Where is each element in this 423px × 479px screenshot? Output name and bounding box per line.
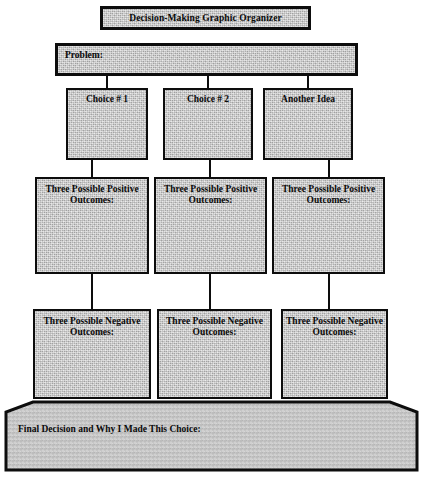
connector-positive-2-to-negative-2: [209, 274, 211, 309]
positive-outcomes-3-label: Three Possible Positive Outcomes:: [274, 184, 383, 205]
organizer-title-box: Decision-Making Graphic Organizer: [100, 6, 311, 30]
organizer-title-label: Decision-Making Graphic Organizer: [129, 13, 282, 24]
final-decision-shape: [4, 400, 419, 472]
connector-problem-to-choice-1: [106, 76, 108, 88]
negative-outcomes-3-label: Three Possible Negative Outcomes:: [283, 316, 386, 337]
negative-outcomes-3-box[interactable]: Three Possible Negative Outcomes:: [281, 309, 388, 399]
final-decision-box[interactable]: Final Decision and Why I Made This Choic…: [4, 400, 419, 472]
problem-label: Problem:: [65, 50, 355, 61]
negative-outcomes-2-label: Three Possible Negative Outcomes:: [159, 316, 270, 337]
final-decision-label: Final Decision and Why I Made This Choic…: [18, 424, 201, 434]
decision-making-graphic-organizer: Decision-Making Graphic Organizer Proble…: [0, 0, 423, 479]
positive-outcomes-1-box[interactable]: Three Possible Positive Outcomes:: [35, 177, 149, 274]
connector-choice-1-to-positive-1: [91, 160, 93, 177]
connector-another-idea-to-positive-3: [328, 160, 330, 177]
positive-outcomes-2-box[interactable]: Three Possible Positive Outcomes:: [154, 177, 267, 274]
connector-problem-to-another-idea: [307, 76, 309, 88]
negative-outcomes-1-box[interactable]: Three Possible Negative Outcomes:: [33, 309, 151, 399]
choice-1-box[interactable]: Choice # 1: [66, 88, 148, 160]
choice-2-box[interactable]: Choice # 2: [163, 88, 253, 160]
positive-outcomes-1-label: Three Possible Positive Outcomes:: [37, 184, 147, 205]
problem-box[interactable]: Problem:: [55, 43, 358, 76]
negative-outcomes-2-box[interactable]: Three Possible Negative Outcomes:: [157, 309, 272, 399]
connector-positive-1-to-negative-1: [91, 274, 93, 309]
choice-2-label: Choice # 2: [165, 94, 251, 105]
positive-outcomes-3-box[interactable]: Three Possible Positive Outcomes:: [272, 177, 385, 274]
negative-outcomes-1-label: Three Possible Negative Outcomes:: [35, 316, 149, 337]
connector-positive-3-to-negative-3: [328, 274, 330, 309]
another-idea-box[interactable]: Another Idea: [263, 88, 353, 160]
another-idea-label: Another Idea: [265, 94, 351, 105]
positive-outcomes-2-label: Three Possible Positive Outcomes:: [156, 184, 265, 205]
connector-choice-2-to-positive-2: [209, 160, 211, 177]
choice-1-label: Choice # 1: [68, 94, 146, 105]
connector-problem-to-choice-2: [207, 76, 209, 88]
